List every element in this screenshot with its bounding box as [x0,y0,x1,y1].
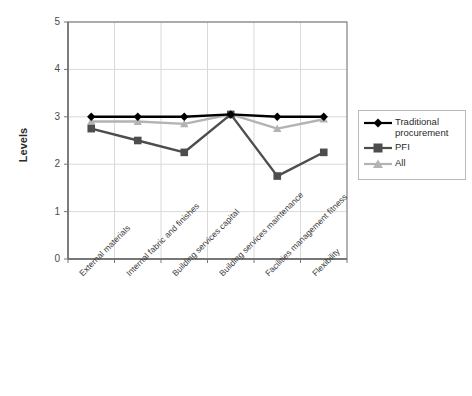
chart-legend: Traditional procurement PFI All [358,110,466,180]
legend-label-traditional-procurement: Traditional procurement [393,116,461,138]
series-line-traditional-procurement [91,114,323,116]
legend-item-all: All [363,157,461,170]
data-point-marker-square [180,149,188,157]
legend-marker-square-icon [363,142,393,154]
data-point-marker-square [320,149,328,157]
chart-container: Levels 012345 External materialsInternal… [0,0,472,396]
legend-marker-diamond-icon [363,117,393,129]
legend-item-traditional-procurement: Traditional procurement [363,116,461,138]
legend-item-pfi: PFI [363,141,461,154]
data-point-marker-diamond [87,113,95,121]
legend-label-pfi: PFI [393,141,410,152]
data-point-marker-square [134,137,142,145]
legend-marker-triangle-icon [363,158,393,170]
legend-label-all: All [393,157,406,168]
data-point-marker-square [87,125,95,133]
plot-area [0,0,472,396]
data-point-marker-diamond [273,113,281,121]
data-point-marker-diamond [180,113,188,121]
data-point-marker-diamond [134,113,142,121]
data-point-marker-square [273,172,281,180]
